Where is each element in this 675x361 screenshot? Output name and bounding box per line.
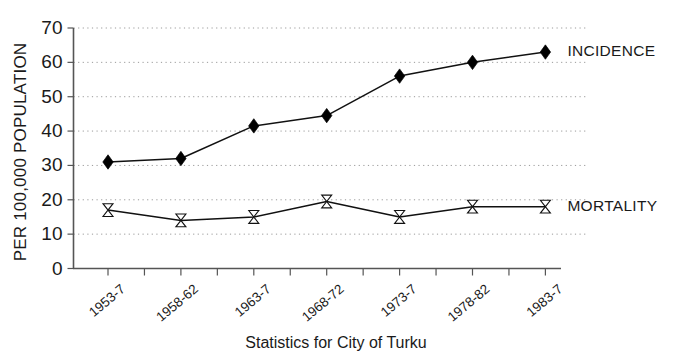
x-tick-label: 1963-7: [232, 281, 274, 320]
grid-lines: [74, 28, 588, 234]
chart-caption: Statistics for City of Turku: [245, 334, 426, 351]
x-tick-labels: 1953-71958-621963-71968-721973-71978-821…: [86, 281, 565, 324]
incidence-marker: [394, 69, 404, 83]
y-tick-label: 70: [41, 17, 62, 38]
incidence-marker: [540, 45, 550, 59]
x-tick-marks: [108, 269, 545, 276]
x-tick-label: 1973-7: [378, 281, 420, 320]
y-axis-title: PER 100,000 POPULATION: [11, 43, 30, 262]
x-tick-label: 1958-62: [153, 281, 201, 324]
incidence-marker: [467, 55, 477, 69]
chart-figure: 010203040506070 1953-71958-621963-71968-…: [0, 0, 675, 361]
y-tick-label: 50: [41, 86, 62, 107]
line-chart-svg: 010203040506070 1953-71958-621963-71968-…: [0, 0, 675, 361]
series-labels: INCIDENCEMORTALITY: [567, 42, 657, 214]
y-tick-label: 20: [41, 189, 62, 210]
incidence-marker: [103, 155, 113, 169]
y-tick-label: 60: [41, 51, 62, 72]
x-tick-label: 1978-82: [445, 281, 493, 324]
y-tick-labels: 010203040506070: [41, 17, 62, 279]
incidence-marker: [249, 119, 259, 133]
y-tick-label: 0: [52, 258, 63, 279]
incidence-marker: [176, 151, 186, 165]
y-tick-label: 30: [41, 154, 62, 175]
y-tick-label: 40: [41, 120, 62, 141]
x-tick-label: 1953-7: [86, 281, 128, 320]
series-label-mortality: MORTALITY: [567, 197, 657, 214]
incidence-marker: [322, 108, 332, 122]
series-label-incidence: INCIDENCE: [567, 42, 655, 59]
y-tick-label: 10: [41, 223, 62, 244]
incidence-line: [108, 52, 545, 162]
incidence-markers: [103, 45, 551, 169]
x-tick-label: 1983-7: [523, 281, 565, 320]
y-tick-marks: [68, 28, 74, 269]
x-tick-label: 1968-72: [299, 281, 347, 324]
series-incidence: [103, 45, 551, 169]
